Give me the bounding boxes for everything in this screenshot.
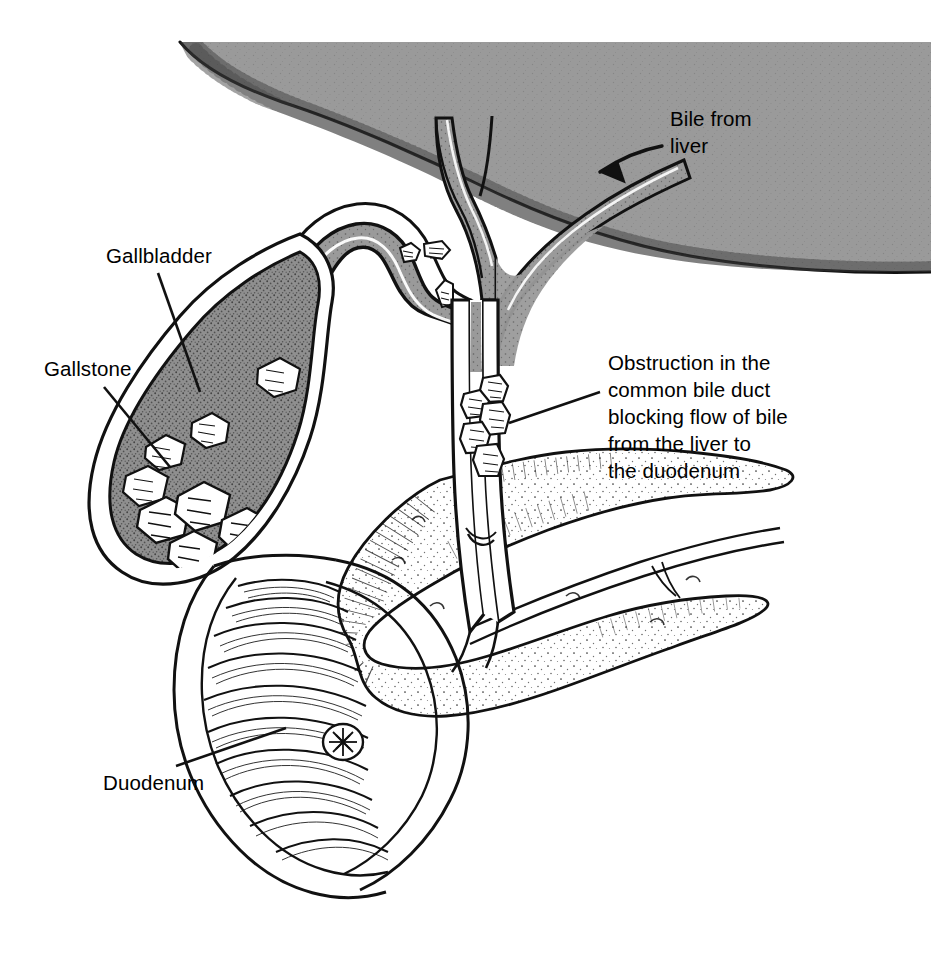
ampulla-of-vater bbox=[323, 724, 363, 760]
leader-obstruction bbox=[509, 392, 600, 423]
label-gallbladder: Gallbladder bbox=[106, 244, 212, 267]
gallstone-obstruction-illustration: Bile from liver Gallbladder Gallstone Ob… bbox=[0, 0, 931, 961]
gallbladder bbox=[89, 234, 333, 584]
label-gallstone: Gallstone bbox=[44, 357, 132, 380]
label-duodenum: Duodenum bbox=[103, 771, 204, 794]
pancreas bbox=[338, 449, 793, 716]
duodenum bbox=[174, 555, 468, 897]
anatomy-diagram: Bile from liver Gallbladder Gallstone Ob… bbox=[0, 0, 931, 961]
